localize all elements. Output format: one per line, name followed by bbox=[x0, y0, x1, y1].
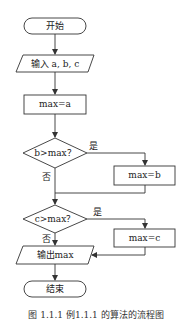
assign-c-label: max=c bbox=[114, 233, 175, 243]
start-label: 开始 bbox=[24, 21, 86, 31]
cond1-no-label: 否 bbox=[42, 172, 51, 182]
arrow-cond1-yes bbox=[87, 153, 145, 165]
init-label: max=a bbox=[24, 99, 86, 109]
line-assign-b-merge bbox=[55, 185, 145, 193]
cond2-label: c>max？ bbox=[23, 214, 87, 224]
cond1-yes-label: 是 bbox=[89, 141, 98, 151]
output-label: 输出max bbox=[16, 250, 94, 260]
arrow-cond2-yes bbox=[87, 219, 145, 228]
flowchart-canvas bbox=[0, 0, 192, 320]
assign-b-label: max=b bbox=[114, 170, 175, 180]
cond2-no-label: 否 bbox=[42, 234, 51, 244]
figure-caption: 图 1.1.1 例1.1.1 的算法的流程图 bbox=[0, 308, 192, 320]
cond2-yes-label: 是 bbox=[93, 207, 102, 217]
input-label: 输入 a, b, c bbox=[16, 59, 94, 69]
cond1-label: b>max？ bbox=[23, 148, 87, 158]
arrow-assign-c-to-output bbox=[92, 247, 145, 255]
end-label: 结束 bbox=[24, 284, 86, 294]
